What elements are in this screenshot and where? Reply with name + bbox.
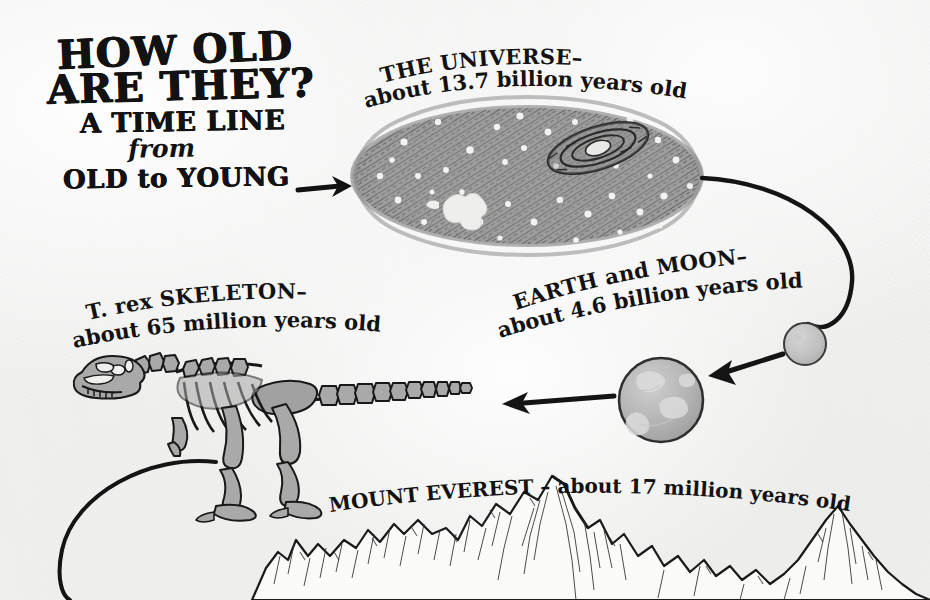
earth-illustration [619,358,703,442]
connector-trex-to-everest [60,461,216,600]
label-mount-everest: MOUNT EVEREST – about 17 million years o… [327,474,852,517]
page-subtitle-line-2: from [128,133,196,163]
connector-title-to-universe [298,176,352,197]
connector-earth-to-trex [502,392,614,414]
label-t-rex-skeleton: T. rex SKELETON– about 65 million years … [70,279,382,353]
t-rex-skull [74,356,145,399]
connector-moon-to-earth [708,354,783,385]
poster-canvas: THE UNIVERSE– about 13.7 billion years o… [0,0,930,600]
moon-illustration [784,323,826,365]
label-universe: THE UNIVERSE– about 13.7 billion years o… [361,44,689,113]
label-mount-everest-full: MOUNT EVEREST – about 17 million years o… [327,474,852,517]
page-subtitle-line-3: OLD to YOUNG [63,161,290,194]
universe-illustration [350,97,704,255]
label-earth-and-moon: EARTH and MOON– about 4.6 billion years … [494,243,803,343]
